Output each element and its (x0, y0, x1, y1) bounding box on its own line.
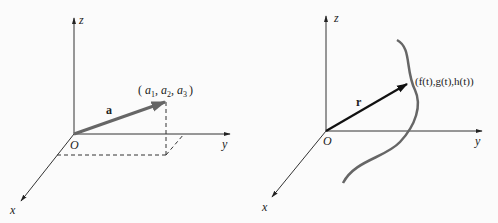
diagram-canvas: z y x O a (a1, a2, a3) z y x O r (f(t),g… (0, 0, 498, 223)
point-label: (f(t),g(t),h(t)) (415, 75, 474, 88)
space-curve (343, 40, 418, 183)
origin-label: O (70, 138, 79, 152)
left-figure: z y x O a (a1, a2, a3) (9, 13, 230, 217)
x-axis (272, 131, 326, 197)
right-figure: z y x O r (f(t),g(t),h(t)) (261, 11, 482, 214)
vector-a-label: a (106, 103, 112, 117)
vector-a (74, 102, 165, 134)
x-axis (21, 134, 74, 201)
x-label: x (9, 203, 16, 217)
vector-r-label: r (356, 95, 362, 109)
x-label: x (261, 200, 268, 214)
y-label: y (474, 134, 481, 148)
origin-label: O (323, 134, 332, 148)
vector-r (326, 84, 407, 131)
z-label: z (78, 13, 84, 27)
point-label: (a1, a2, a3) (138, 83, 193, 99)
y-label: y (221, 137, 228, 151)
z-label: z (333, 11, 339, 25)
